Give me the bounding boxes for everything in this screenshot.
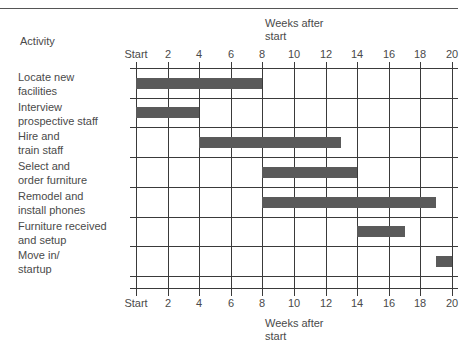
tick-label-bottom: 14 — [351, 297, 363, 310]
tick-label-top: 4 — [196, 48, 202, 61]
tick-label-top: 16 — [383, 48, 395, 61]
tick-label-bottom: 10 — [288, 297, 300, 310]
row-label: Hire and train staff — [18, 130, 63, 157]
task-bar — [436, 256, 452, 267]
tick-label-bottom: 2 — [165, 297, 171, 310]
top-axis-title: Weeks after start — [265, 17, 324, 43]
tick-label-bottom: 6 — [228, 297, 234, 310]
task-bar — [262, 197, 436, 208]
top-rule — [0, 8, 458, 9]
gridline-horizontal — [130, 246, 458, 247]
row-label: Select and order furniture — [18, 160, 87, 187]
row-label: Locate new facilities — [18, 71, 74, 98]
task-bar — [199, 137, 341, 148]
tick-label-top: 18 — [414, 48, 426, 61]
gridline-horizontal — [130, 276, 458, 277]
tick-label-bottom: 20 — [446, 297, 458, 310]
tick-label-bottom: 16 — [383, 297, 395, 310]
tick-label-top: 2 — [165, 48, 171, 61]
gridline-horizontal — [130, 217, 458, 218]
tick-label-top: 14 — [351, 48, 363, 61]
tick-label-top: 6 — [228, 48, 234, 61]
row-label: Furniture received and setup — [18, 220, 107, 247]
tick-label-top: 20 — [446, 48, 458, 61]
tick-label-top: 12 — [320, 48, 332, 61]
gridline-horizontal — [130, 98, 458, 99]
gridline-horizontal — [130, 157, 458, 158]
tick-label-top: Start — [124, 48, 147, 61]
row-label: Interview prospective staff — [18, 101, 98, 128]
tick-label-top: 8 — [259, 48, 265, 61]
tick-label-bottom: 18 — [414, 297, 426, 310]
tick-label-bottom: 8 — [259, 297, 265, 310]
task-bar — [357, 226, 404, 237]
bottom-axis-title: Weeks after start — [265, 317, 324, 343]
task-bar — [136, 107, 199, 118]
tick-label-top: 10 — [288, 48, 300, 61]
gridline-horizontal — [130, 288, 458, 289]
task-bar — [262, 167, 357, 178]
gridline-horizontal — [130, 127, 458, 128]
task-bar — [136, 78, 262, 89]
tick-label-bottom: 12 — [320, 297, 332, 310]
gridline-horizontal — [130, 68, 458, 69]
tick-label-bottom: Start — [124, 297, 147, 310]
row-label: Remodel and install phones — [18, 190, 85, 217]
tick-label-bottom: 4 — [196, 297, 202, 310]
gridline-horizontal — [130, 187, 458, 188]
activity-header: Activity — [20, 35, 55, 48]
row-label: Move in/ startup — [18, 249, 60, 276]
